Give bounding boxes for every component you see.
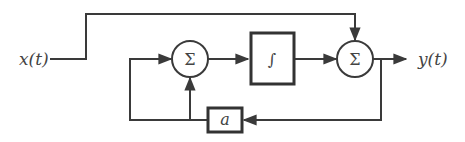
summing-junction-2: Σ (337, 41, 373, 77)
summing-junction-1: Σ (172, 41, 208, 77)
gain-label: a (220, 110, 230, 129)
input-label: x(t) (19, 49, 49, 69)
output-label: y(t) (417, 49, 448, 69)
block-diagram: Σ ∫ Σ a x(t) y(t) (0, 0, 465, 142)
sigma-icon: Σ (349, 50, 360, 69)
integrator-block: ∫ (251, 33, 294, 84)
diagram-svg: Σ ∫ Σ a x(t) y(t) (0, 0, 465, 142)
gain-block: a (208, 108, 242, 132)
sigma-icon: Σ (184, 50, 195, 69)
integral-icon: ∫ (268, 50, 276, 69)
